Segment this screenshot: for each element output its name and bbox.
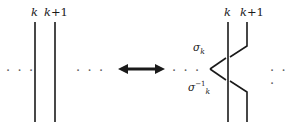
right-label-k: k xyxy=(224,7,231,19)
right-label-k-plus-1: k+1 xyxy=(240,7,264,19)
left-label-k-plus-1-base: k xyxy=(44,5,51,19)
right-ellipsis-outer-left: · · · xyxy=(172,64,201,77)
label-sigma-k-inverse: σ−1k xyxy=(188,81,210,95)
braid-relation-figure: k k+1 · · · · · · k k+1 · · · · · · σk σ… xyxy=(0,0,295,128)
left-label-k: k xyxy=(31,7,38,19)
braid-diagram-canvas xyxy=(0,0,295,128)
left-ellipsis-outer: · · · xyxy=(6,64,35,77)
left-label-k-plus-1-operator: + xyxy=(51,5,61,19)
sigma-k-inverse-subscript: k xyxy=(206,87,211,96)
right-lower-over-right-segment xyxy=(230,81,247,122)
sigma-k-subscript: k xyxy=(200,47,205,56)
right-upper-under-left-segment xyxy=(210,58,226,69)
right-upper-over-right-segment xyxy=(230,22,247,57)
left-label-k-plus-1-suffix: 1 xyxy=(61,5,68,19)
left-label-k-plus-1: k+1 xyxy=(44,7,68,19)
sigma-k-inverse-superscript: −1 xyxy=(195,80,205,88)
equivalence-arrow-glyph xyxy=(118,64,165,74)
right-label-k-plus-1-operator: + xyxy=(247,5,257,19)
right-ellipsis-outer-right: · · · xyxy=(270,64,295,90)
left-ellipsis-inner: · · · xyxy=(76,64,105,77)
right-label-k-plus-1-suffix: 1 xyxy=(257,5,264,19)
label-sigma-k: σk xyxy=(193,42,205,56)
right-lower-under-left-segment xyxy=(210,69,226,80)
right-label-k-plus-1-base: k xyxy=(240,5,247,19)
